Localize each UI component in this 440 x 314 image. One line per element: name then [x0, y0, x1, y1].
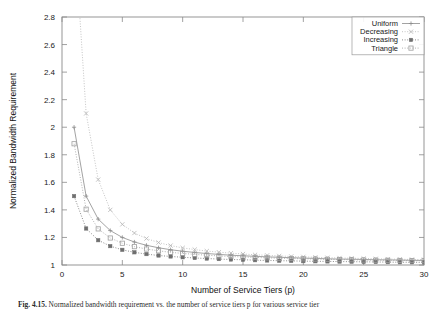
y-tick-label: 1.6	[44, 178, 56, 187]
caption-text: Normalized bandwidth requirement vs. the…	[49, 300, 320, 309]
y-tick-label: 1	[51, 261, 56, 270]
y-tick-label: 2.8	[44, 13, 56, 22]
caption-label: Fig. 4.15.	[18, 300, 47, 309]
series-increasing	[72, 194, 425, 264]
x-tick-label: 30	[420, 270, 429, 279]
figure-container: 11.21.41.61.822.22.42.62.8051015202530Nu…	[0, 0, 440, 314]
y-tick-label: 2.4	[44, 68, 56, 77]
chart-legend: UniformDecreasingIncreasingTriangle	[352, 17, 424, 55]
y-axis-title: Normalized Bandwidth Requirement	[8, 72, 18, 209]
y-tick-label: 2.2	[44, 96, 56, 105]
x-tick-label: 0	[60, 270, 65, 279]
x-tick-label: 25	[359, 270, 368, 279]
y-tick-label: 1.4	[44, 206, 56, 215]
series-triangle	[72, 142, 426, 263]
figure-caption: Fig. 4.15. Normalized bandwidth requirem…	[18, 300, 428, 309]
legend-label-triangle: Triangle	[371, 44, 398, 53]
series-uniform	[72, 125, 426, 262]
x-tick-label: 20	[299, 270, 308, 279]
y-tick-label: 1.2	[44, 233, 56, 242]
x-tick-label: 10	[178, 270, 187, 279]
x-tick-label: 5	[120, 270, 125, 279]
y-tick-label: 2	[51, 123, 56, 132]
line-chart: 11.21.41.61.822.22.42.62.8051015202530Nu…	[0, 0, 440, 300]
y-tick-label: 1.8	[44, 151, 56, 160]
x-tick-label: 15	[239, 270, 248, 279]
x-axis-title: Number of Service Tiers (p)	[191, 285, 295, 295]
plot-area: 11.21.41.61.822.22.42.62.8051015202530Nu…	[0, 0, 440, 300]
y-tick-label: 2.6	[44, 41, 56, 50]
